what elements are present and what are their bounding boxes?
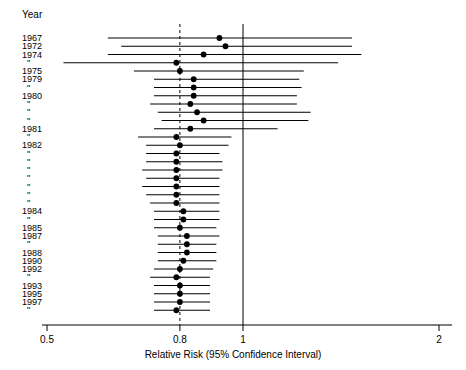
point-estimate	[173, 192, 179, 198]
year-label-1979: 1979	[22, 74, 42, 84]
year-column-header: Year	[22, 9, 43, 20]
year-label-1974: 1974	[22, 50, 42, 60]
point-estimate	[173, 274, 179, 280]
year-label-1982: 1982	[22, 140, 42, 150]
year-label-1997: 1997	[22, 297, 42, 307]
point-estimate	[223, 43, 229, 49]
year-label-1984: 1984	[22, 206, 42, 216]
point-estimate	[194, 109, 200, 115]
point-estimate	[181, 208, 187, 214]
point-estimate	[173, 159, 179, 165]
point-estimate	[201, 118, 207, 124]
x-axis-label: Relative Risk (95% Confidence Interval)	[145, 349, 322, 360]
point-estimate	[184, 250, 190, 256]
point-estimate	[217, 35, 223, 41]
point-estimate	[173, 307, 179, 313]
point-estimate	[187, 101, 193, 107]
point-estimate	[181, 258, 187, 264]
point-estimate	[201, 52, 207, 58]
point-estimate	[173, 60, 179, 66]
point-estimate	[184, 241, 190, 247]
point-estimate	[191, 85, 197, 91]
x-tick-label: 2	[436, 334, 442, 345]
plot-background	[0, 0, 466, 370]
point-estimate	[187, 126, 193, 132]
point-estimate	[184, 233, 190, 239]
year-label-ditto: "	[27, 305, 30, 315]
year-label-1980: 1980	[22, 91, 42, 101]
point-estimate	[173, 167, 179, 173]
point-estimate	[181, 217, 187, 223]
year-label-1981: 1981	[22, 124, 42, 134]
x-tick-label: 0.5	[40, 334, 54, 345]
point-estimate	[173, 184, 179, 190]
point-estimate	[191, 76, 197, 82]
point-estimate	[173, 175, 179, 181]
point-estimate	[173, 151, 179, 157]
point-estimate	[173, 134, 179, 140]
point-estimate	[191, 93, 197, 99]
year-label-1992: 1992	[22, 264, 42, 274]
year-label-1987: 1987	[22, 231, 42, 241]
forest-plot: Year 196719721974"19751979"1980"""1981"1…	[0, 0, 466, 370]
x-tick-label: 1	[240, 334, 246, 345]
x-tick-label: 0.8	[173, 334, 187, 345]
point-estimate	[173, 200, 179, 206]
